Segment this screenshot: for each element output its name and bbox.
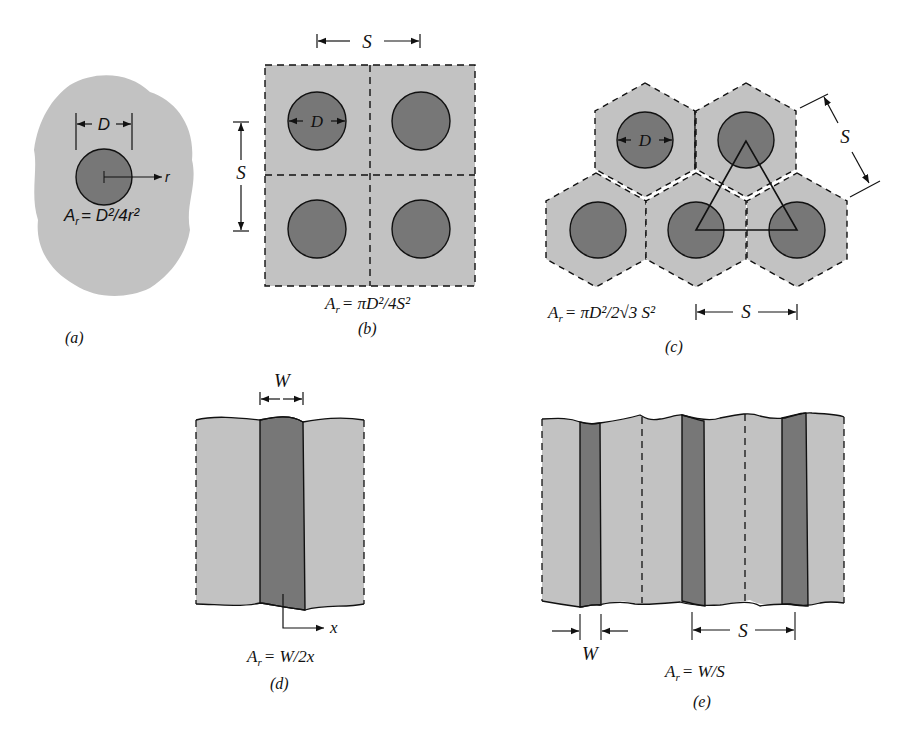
- caption-d: (d): [270, 675, 289, 693]
- panel-b: S D S Ar= πD²/4S² (b): [233, 31, 475, 338]
- label-S-horizontal: S: [741, 301, 751, 322]
- label-S-horizontal: S: [362, 31, 372, 52]
- caption-e: (e): [693, 693, 711, 711]
- formula-c: Ar= πD²/2√3 S²: [547, 303, 656, 324]
- arrow-diagonal-down-icon: [852, 152, 869, 183]
- fiber-circle: [392, 200, 450, 258]
- label-D: D: [638, 131, 652, 150]
- layer-strip: [580, 422, 601, 607]
- label-D: D: [98, 115, 110, 134]
- formula-e: Ar= W/S: [664, 662, 725, 683]
- dim-tick: [850, 181, 880, 197]
- fiber-circle: [288, 200, 346, 258]
- formula-b: Ar= πD²/4S²: [324, 294, 411, 315]
- caption-c: (c): [665, 338, 683, 356]
- panel-d: W x Ar= W/2x (d): [196, 370, 364, 693]
- figure-canvas: D r Ar= D²/4r² (a) S D S Ar= πD²/4S²: [0, 0, 914, 742]
- caption-a: (a): [65, 329, 84, 347]
- label-S-vertical: S: [236, 162, 246, 183]
- label-S: S: [738, 620, 748, 641]
- arrow-diagonal-up-icon: [824, 97, 838, 123]
- formula-a: Ar= D²/4r²: [63, 206, 140, 227]
- label-D: D: [310, 112, 324, 131]
- label-x: x: [329, 618, 338, 637]
- label-S-diagonal: S: [840, 126, 850, 147]
- formula-d: Ar= W/2x: [246, 647, 315, 668]
- layer-strip: [682, 415, 705, 606]
- dim-tick: [800, 94, 828, 108]
- label-W: W: [582, 643, 600, 664]
- panel-a: D r Ar= D²/4r² (a): [34, 75, 194, 347]
- panel-c: D S S Ar= πD²/2√3 S² (c): [546, 83, 880, 356]
- fiber-circle: [392, 92, 450, 150]
- label-W: W: [274, 370, 292, 391]
- layer-strip: [260, 417, 305, 610]
- fiber-circle: [570, 202, 626, 258]
- caption-b: (b): [358, 320, 377, 338]
- panel-e: W S Ar= W/S (e): [542, 413, 844, 711]
- layer-strip: [782, 413, 808, 606]
